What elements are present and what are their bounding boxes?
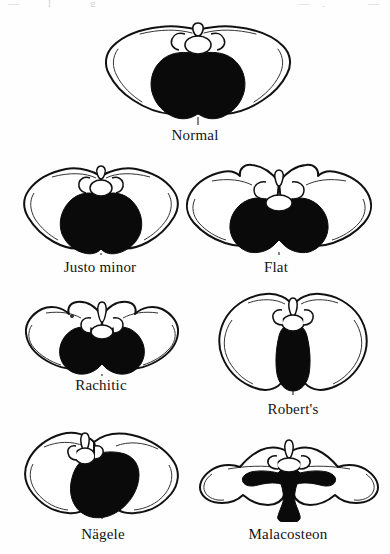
normal-pelvis-drawing [100, 18, 296, 126]
edge-artifact-glyph: — [298, 0, 309, 7]
figure-malacosteon [198, 438, 380, 522]
caption-normal: Normal [0, 128, 390, 143]
edge-artifact-glyph: — [368, 0, 379, 7]
roberts-inlet-fill [276, 324, 310, 391]
flat-pelvis-drawing [186, 160, 372, 256]
caption-nagele: Nägele [23, 527, 183, 542]
figure-rachitic [24, 294, 180, 376]
edge-artifact-glyph: g [90, 0, 96, 7]
edge-artifact-glyph: l [48, 0, 51, 7]
figure-nagele [22, 428, 184, 520]
caption-roberts: Robert's [213, 402, 373, 417]
figure-normal [100, 18, 296, 126]
caption-justo-minor: Justo minor [20, 260, 180, 275]
figure-justo-minor [22, 160, 180, 256]
nagele-pelvis-drawing [22, 428, 184, 520]
caption-flat: Flat [196, 260, 356, 275]
justo-minor-pelvis-drawing [22, 160, 180, 256]
roberts-pelvis-drawing [214, 290, 372, 396]
justo-minor-inlet-fill [60, 193, 141, 254]
page-edge-artifacts: — l g — , — [0, 0, 390, 7]
edge-artifact-glyph: , [322, 0, 325, 7]
figure-roberts [214, 290, 372, 396]
malacosteon-pelvis-drawing [198, 438, 380, 522]
pelvis-illustration-plate: — l g — , — [0, 0, 390, 554]
caption-malacosteon: Malacosteon [208, 527, 368, 542]
figure-flat [186, 160, 372, 256]
rachitic-pelvis-drawing [24, 294, 180, 376]
caption-rachitic: Rachitic [21, 378, 181, 393]
normal-inlet-fill [151, 52, 245, 118]
edge-artifact-glyph: — [8, 0, 19, 7]
